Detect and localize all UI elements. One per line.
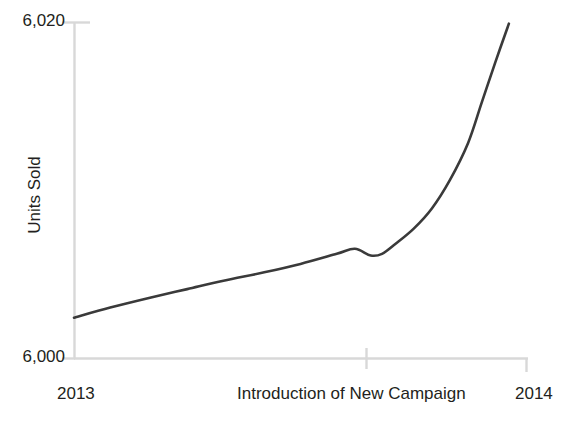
- y-axis-tick-label-bottom: 6,000: [22, 347, 65, 367]
- y-axis-tick-label-top: 6,020: [22, 11, 65, 31]
- chart-container: 6,020 6,000 Units Sold 2013 Introduction…: [0, 0, 562, 421]
- y-axis-title: Units Sold: [25, 135, 45, 255]
- x-axis-tick-label-right: 2014: [515, 384, 553, 404]
- data-line-units-sold: [74, 24, 509, 318]
- x-axis-tick-label-left: 2013: [57, 384, 95, 404]
- chart-plot-area: [0, 0, 562, 421]
- x-axis-annotation-campaign: Introduction of New Campaign: [237, 384, 466, 404]
